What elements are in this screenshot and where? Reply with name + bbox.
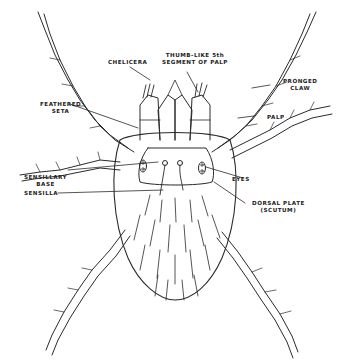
label-pronged-claw: PRONGED CLAW — [283, 78, 317, 91]
label-thumb-like-palp-segment: THUMB-LIKE 5th SEGMENT OF PALP — [162, 52, 228, 65]
leg-hind-left — [46, 230, 130, 355]
sensilla-right — [180, 165, 183, 190]
label-palp: PALP — [267, 114, 285, 121]
leg-hind-right — [217, 232, 298, 358]
body-setae — [134, 195, 220, 300]
label-dorsal-plate: DORSAL PLATE (SCUTUM) — [252, 200, 305, 213]
leg-front-left — [38, 12, 134, 152]
sensilla-left — [160, 165, 165, 195]
label-chelicera: CHELICERA — [108, 59, 147, 66]
label-eyes: EYES — [232, 176, 250, 183]
label-feathered-seta: FEATHERED SETA — [40, 101, 81, 114]
label-sensilla: SENSILLA — [24, 190, 58, 197]
label-sensillary-base: SENSILLARY BASE — [24, 174, 67, 187]
leader-lines — [58, 67, 270, 203]
